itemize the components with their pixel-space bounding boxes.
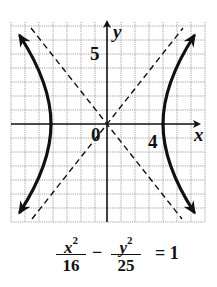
minus-sign: −: [92, 242, 102, 263]
denominator-16: 16: [56, 255, 86, 277]
var-x: x: [64, 238, 73, 257]
fraction-x-term: x2 16: [56, 232, 86, 277]
fraction-y-term: y2 25: [111, 232, 141, 277]
right-branch-upper: [163, 36, 194, 124]
equals-one: = 1: [155, 243, 179, 264]
var-y: y: [119, 238, 127, 257]
right-branch-lower: [163, 124, 194, 212]
exponent-x: 2: [73, 234, 79, 246]
y-tick-label: 5: [90, 43, 100, 64]
numerator-y: y2: [111, 232, 141, 255]
hyperbola-equation: x2 16 − y2 25 = 1: [0, 232, 217, 284]
exponent-y: 2: [127, 234, 133, 246]
hyperbola-graph: y x 5 0 4: [0, 0, 217, 232]
x-tick-label: 4: [148, 131, 158, 152]
x-axis-label: x: [193, 124, 204, 145]
numerator-x: x2: [56, 232, 86, 255]
origin-label: 0: [91, 124, 101, 145]
y-axis-label: y: [111, 21, 122, 42]
denominator-25: 25: [111, 255, 141, 277]
